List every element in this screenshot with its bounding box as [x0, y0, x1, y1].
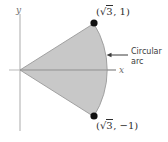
circular-arc-annotation: Circular arc — [131, 47, 162, 67]
upper-point-label-tail: , 1) — [113, 6, 130, 17]
x-axis-label: x — [119, 66, 124, 75]
circular-arc-annotation-line2: arc — [131, 57, 162, 67]
y-axis-label: y — [16, 6, 21, 15]
lower-point-marker — [90, 112, 97, 119]
upper-point-label: (√3, 1) — [96, 7, 130, 17]
upper-point-marker — [90, 19, 97, 26]
circular-arc-annotation-line1: Circular — [131, 47, 162, 57]
circular-arc-pointer-arrow — [107, 53, 129, 57]
figure-canvas — [0, 0, 168, 142]
lower-point-label: (√3, −1) — [96, 121, 138, 131]
circular-sector-figure: y x (√3, 1) (√3, −1) Circular arc — [0, 0, 168, 142]
lower-point-label-tail: , −1) — [113, 120, 138, 131]
